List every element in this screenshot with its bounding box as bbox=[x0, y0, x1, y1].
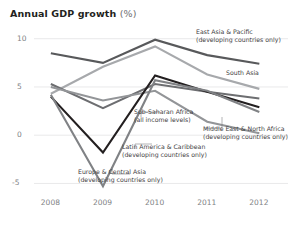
series-label-line2: (developing countries only) bbox=[203, 133, 288, 141]
x-axis-tick-label: 2009 bbox=[93, 198, 112, 207]
series-label-line1: East Asia & Pacific bbox=[196, 28, 281, 36]
x-axis-tick-label: 2010 bbox=[145, 198, 164, 207]
series-label-line2: (all income levels) bbox=[134, 116, 193, 124]
series-label-europe-central-asia: Europe & Central Asia (developing countr… bbox=[78, 168, 163, 184]
series-label-line2: (developing countries only) bbox=[196, 36, 281, 44]
y-axis-tick-label: -5 bbox=[12, 178, 19, 187]
y-axis-tick-label: 0 bbox=[17, 130, 22, 139]
x-axis-tick-label: 2008 bbox=[41, 198, 60, 207]
series-label-line1: South Asia bbox=[226, 69, 259, 77]
series-label-line1: Middle East & North Africa bbox=[203, 125, 288, 133]
series-label-south-asia: South Asia bbox=[226, 69, 259, 77]
series-label-line2: (developing countries only) bbox=[122, 151, 207, 159]
x-axis-tick-label: 2012 bbox=[249, 198, 268, 207]
series-label-line1: Europe & Central Asia bbox=[78, 168, 163, 176]
series-label-middle-east-north-africa: Middle East & North Africa (developing c… bbox=[203, 125, 288, 141]
series-label-line1: Latin America & Caribbean bbox=[122, 143, 207, 151]
series-label-east-asia-pacific: East Asia & Pacific (developing countrie… bbox=[196, 28, 281, 44]
y-axis-tick-label: 10 bbox=[17, 34, 27, 43]
y-axis-tick-label: 5 bbox=[17, 82, 22, 91]
series-label-latin-america-caribbean: Latin America & Caribbean (developing co… bbox=[122, 143, 207, 159]
chart-title: Annual GDP growth (%) bbox=[10, 8, 137, 19]
x-axis-tick-label: 2011 bbox=[197, 198, 216, 207]
series-label-sub-saharan-africa: Sub-Saharan Africa (all income levels) bbox=[134, 108, 193, 124]
series-label-line2: (developing countries only) bbox=[78, 176, 163, 184]
series-label-line1: Sub-Saharan Africa bbox=[134, 108, 193, 116]
source-footer: Source: Online table 4.1. bbox=[0, 208, 294, 233]
chart-title-text: Annual GDP growth bbox=[10, 8, 116, 19]
chart-title-unit: (%) bbox=[120, 8, 137, 19]
gdp-growth-figure: Annual GDP growth (%) 1050-5 20082009201… bbox=[0, 0, 294, 233]
